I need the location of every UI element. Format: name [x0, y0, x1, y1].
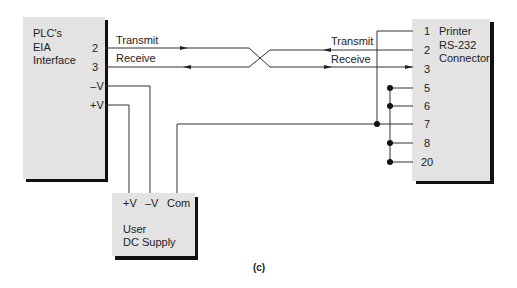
plc-title-line-3: Interface: [33, 54, 76, 66]
printer-receive-label: Receive: [331, 53, 371, 65]
printer-rs232-connector-box: Printer RS-232 Connector 1 2 3 5 6 7 8 2…: [412, 19, 494, 184]
user-dc-supply-box: +V –V Com User DC Supply: [112, 193, 198, 260]
plc-transmit-label: Transmit: [116, 34, 158, 46]
supply-title-line-2: DC Supply: [123, 236, 176, 248]
printer-pin-6: 6: [424, 100, 430, 112]
plc-pin-2: 2: [92, 42, 98, 54]
supply-terminal-minus-v: –V: [145, 197, 159, 209]
plc-pin-minus-v: –V: [90, 80, 104, 92]
arrow-right-icon: [324, 65, 332, 69]
printer-pin-8: 8: [424, 137, 430, 149]
com-wire: [177, 124, 413, 193]
plc-eia-interface-box: PLC's EIA Interface 2 3 –V +V: [23, 17, 108, 182]
arrow-right-icon: [180, 46, 188, 50]
supply-terminal-plus-v: +V: [123, 197, 137, 209]
supply-title-line-1: User: [123, 223, 147, 235]
printer-title-line-3: Connector: [439, 52, 490, 64]
printer-pin-1: 1: [424, 25, 430, 37]
printer-title-line-1: Printer: [439, 25, 472, 37]
arrow-left-icon: [323, 48, 331, 52]
plc-pin-3: 3: [92, 61, 98, 73]
wiring-diagram: PLC's EIA Interface 2 3 –V +V Printer RS…: [0, 0, 517, 288]
plus-v-wire: [105, 105, 129, 193]
arrow-right-icon: [405, 65, 413, 69]
junction-dot: [387, 140, 393, 146]
arrow-left-icon: [183, 65, 191, 69]
pin1-to-pin7-wire: [377, 31, 413, 124]
junction-dot: [387, 85, 393, 91]
junction-dot: [387, 103, 393, 109]
supply-terminal-com: Com: [167, 197, 190, 209]
printer-pin-7: 7: [424, 118, 430, 130]
figure-caption: (c): [253, 262, 265, 273]
printer-pin-3: 3: [424, 63, 430, 75]
plc-receive-label: Receive: [116, 52, 156, 64]
printer-pin-2: 2: [424, 44, 430, 56]
minus-v-wire: [105, 86, 150, 193]
printer-pin-5: 5: [424, 82, 430, 94]
plc-title-line-2: EIA: [33, 41, 51, 53]
signal-arrows: [180, 46, 413, 69]
printer-title-line-2: RS-232: [439, 39, 476, 51]
printer-pin-20: 20: [421, 156, 433, 168]
junction-dot: [387, 159, 393, 165]
plc-pin-plus-v: +V: [90, 99, 104, 111]
junction-dot: [374, 121, 380, 127]
printer-transmit-label: Transmit: [331, 35, 373, 47]
plc-title-line-1: PLC's: [33, 27, 62, 39]
